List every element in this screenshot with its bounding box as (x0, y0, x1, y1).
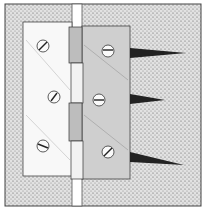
hinge-knuckle (71, 141, 83, 179)
hinge-drawing (0, 0, 203, 208)
hinge-knuckle (69, 27, 82, 63)
hinge-illustration (0, 0, 203, 208)
hinge-knuckle (69, 103, 82, 141)
screw-icon (102, 45, 114, 57)
hinge-knuckle (71, 63, 83, 103)
